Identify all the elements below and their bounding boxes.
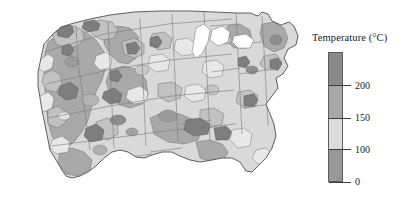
tick-mark-icon <box>329 118 351 119</box>
tick-label-100: 100 <box>355 144 370 154</box>
map-landmass <box>0 0 312 203</box>
legend-title: Temperature (°C) <box>312 32 408 43</box>
figure-root: Temperature (°C) 200 150 100 0 <box>0 0 408 203</box>
tick-label-200: 200 <box>355 80 370 90</box>
legend-panel: Temperature (°C) 200 150 100 0 <box>310 0 408 203</box>
map-panel <box>0 0 312 203</box>
tick-label-0: 0 <box>355 177 360 187</box>
us-temperature-map <box>0 0 312 203</box>
tick-label-150: 150 <box>355 113 370 123</box>
tick-mark-icon <box>329 85 351 86</box>
tick-mark-icon <box>329 149 351 150</box>
colorbar-ticks: 200 150 100 0 <box>328 52 408 182</box>
tick-mark-icon <box>329 182 351 183</box>
